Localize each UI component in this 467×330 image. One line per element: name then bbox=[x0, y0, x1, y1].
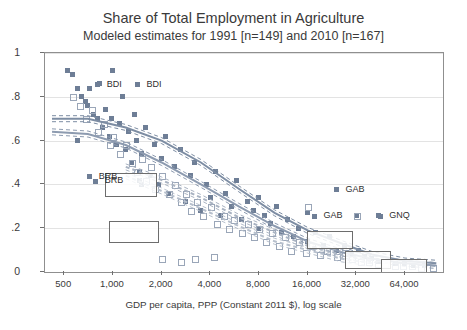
fit-lines bbox=[45, 53, 443, 272]
annotated-point bbox=[135, 82, 140, 87]
chart-figure: Share of Total Employment in Agriculture… bbox=[0, 0, 467, 330]
y-tick-mark bbox=[40, 271, 44, 272]
x-tick-mark bbox=[209, 271, 210, 275]
x-tick-label: 1,000 bbox=[100, 278, 124, 289]
annotation-label: BRB bbox=[105, 175, 124, 185]
x-axis-label: GDP per capita, PPP (Constant 2011 $), l… bbox=[0, 299, 467, 310]
x-tick-mark bbox=[63, 271, 64, 275]
annotated-point bbox=[312, 214, 317, 219]
x-tick-label: 4,000 bbox=[197, 278, 221, 289]
annotation-label: BDI bbox=[146, 79, 161, 89]
annotation-label: GAB bbox=[345, 184, 364, 194]
y-tick-mark bbox=[40, 52, 44, 53]
x-tick-mark bbox=[404, 271, 405, 275]
x-tick-mark bbox=[112, 271, 113, 275]
annotated-point bbox=[95, 82, 100, 87]
y-tick-label: .8 bbox=[0, 90, 20, 102]
annotated-point bbox=[378, 214, 383, 219]
x-tick-mark bbox=[307, 271, 308, 275]
annotation-label: BDI bbox=[107, 79, 122, 89]
y-tick-mark bbox=[40, 183, 44, 184]
annotation-box bbox=[109, 221, 159, 243]
annotated-point bbox=[87, 174, 92, 179]
annotated-point bbox=[93, 179, 98, 184]
y-tick-label: 0 bbox=[0, 265, 20, 277]
y-tick-mark bbox=[40, 227, 44, 228]
chart-subtitle: Modeled estimates for 1991 [n=149] and 2… bbox=[0, 29, 467, 43]
x-tick-mark bbox=[355, 271, 356, 275]
y-tick-label: .4 bbox=[0, 177, 20, 189]
x-tick-mark bbox=[258, 271, 259, 275]
y-tick-label: .2 bbox=[0, 221, 20, 233]
x-tick-label: 500 bbox=[55, 278, 71, 289]
x-tick-label: 16,000 bbox=[292, 278, 321, 289]
x-tick-mark bbox=[161, 271, 162, 275]
y-tick-mark bbox=[40, 140, 44, 141]
x-tick-label: 2,000 bbox=[149, 278, 173, 289]
annotation-label: GAB bbox=[324, 210, 343, 220]
x-tick-label: 32,000 bbox=[341, 278, 370, 289]
plot-area: BDIBDIBRBBRBGABGABGNQ bbox=[44, 52, 444, 273]
y-tick-mark bbox=[40, 96, 44, 97]
x-tick-label: 64,000 bbox=[389, 278, 418, 289]
y-tick-label: 1 bbox=[0, 46, 20, 58]
plot-inner: BDIBDIBRBBRBGABGABGNQ bbox=[45, 53, 443, 272]
chart-title: Share of Total Employment in Agriculture bbox=[0, 10, 467, 26]
annotation-label: GNQ bbox=[389, 210, 410, 220]
y-tick-label: .6 bbox=[0, 134, 20, 146]
annotation-box bbox=[307, 231, 353, 249]
x-tick-label: 8,000 bbox=[246, 278, 270, 289]
annotated-point bbox=[334, 187, 339, 192]
